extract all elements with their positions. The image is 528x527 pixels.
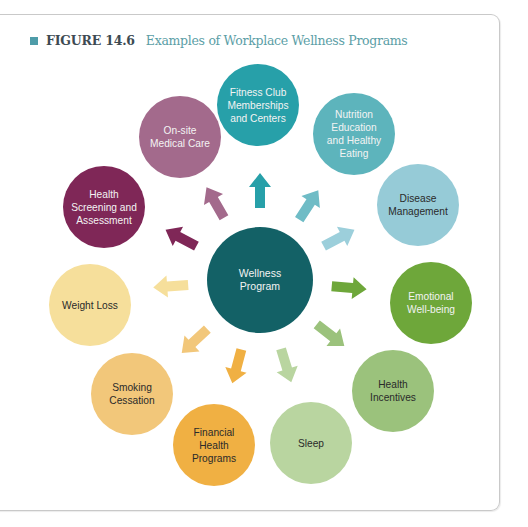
node-label: Health Incentives xyxy=(370,378,416,404)
arrow-incentives-icon xyxy=(310,316,351,355)
node-label: Smoking Cessation xyxy=(109,381,154,407)
node-label: Financial Health Programs xyxy=(192,426,236,465)
node-onsite-medical-care: On-site Medical Care xyxy=(139,96,221,178)
arrow-onsite-icon xyxy=(197,182,234,223)
node-label: Weight Loss xyxy=(62,299,118,312)
node-financial-health: Financial Health Programs xyxy=(173,404,255,486)
node-label: Sleep xyxy=(298,437,324,450)
node-label: Nutrition Education and Healthy Eating xyxy=(327,108,381,160)
arrow-financial-icon xyxy=(222,347,252,387)
node-weight-loss: Weight Loss xyxy=(49,264,131,346)
node-sleep: Sleep xyxy=(270,402,352,484)
center-node-label: Wellness Program xyxy=(239,267,281,293)
node-fitness-club: Fitness Club Memberships and Centers xyxy=(217,64,299,146)
arrow-weight-icon xyxy=(152,274,188,298)
node-emotional-well-being: Emotional Well-being xyxy=(390,262,472,344)
arrow-emotional-icon xyxy=(331,275,368,300)
arrow-sleep-icon xyxy=(271,346,302,386)
arrow-smoking-icon xyxy=(174,321,215,361)
node-label: Disease Management xyxy=(388,192,447,218)
node-nutrition-education: Nutrition Education and Healthy Eating xyxy=(313,93,395,175)
arrow-fitness-icon xyxy=(249,173,271,208)
node-health-incentives: Health Incentives xyxy=(352,350,434,432)
node-label: Emotional Well-being xyxy=(407,290,455,316)
node-label: On-site Medical Care xyxy=(150,124,210,150)
center-node-wellness-program: Wellness Program xyxy=(207,227,313,333)
node-label: Health Screening and Assessment xyxy=(71,188,137,227)
arrow-disease-icon xyxy=(318,220,359,256)
node-smoking-cessation: Smoking Cessation xyxy=(91,353,173,435)
node-disease-management: Disease Management xyxy=(377,164,459,246)
node-health-screening: Health Screening and Assessment xyxy=(63,166,145,248)
node-label: Fitness Club Memberships and Centers xyxy=(227,86,288,125)
arrow-nutrition-icon xyxy=(290,184,328,225)
arrow-screening-icon xyxy=(160,220,201,256)
